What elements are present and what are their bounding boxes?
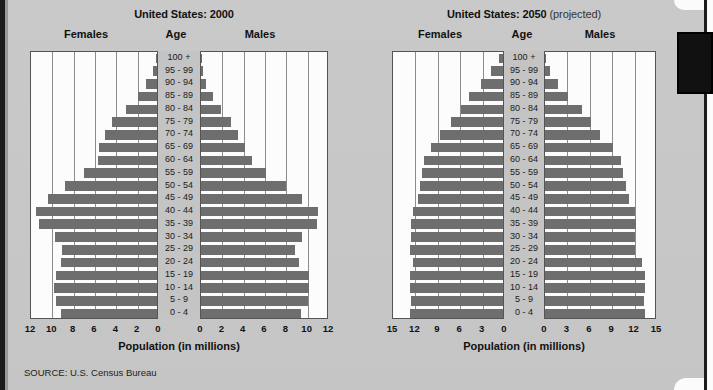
bar-males-50-54 [201,181,286,191]
bar-males-55-59 [545,168,623,178]
age-label: 90 - 94 [158,78,200,87]
females-plot [30,51,158,319]
bar-females-60-64 [424,156,503,166]
bar-males-85-89 [545,92,568,102]
column-headers: FemalesAgeMales [8,28,360,44]
bar-males-65-69 [545,143,613,153]
bar-row [393,167,503,180]
bar-row [545,90,655,103]
bar-row [201,52,327,65]
bar-row [201,294,327,307]
bar-females-70-74 [105,130,157,140]
x-tick-left: 12 [409,323,420,334]
bar-males-90-94 [545,79,558,89]
bar-males-75-79 [201,117,231,127]
age-label: 45 - 49 [158,193,200,202]
bar-row [545,294,655,307]
bar-females-90-94 [481,79,503,89]
bar-females-95-99 [491,66,503,76]
bar-males-80-84 [201,105,221,115]
bar-row [393,141,503,154]
x-tick-right: 6 [586,323,591,334]
x-tick-right: 4 [240,323,245,334]
bar-row [201,141,327,154]
bar-females-0-4 [410,309,503,319]
age-label: 80 - 84 [158,104,200,113]
age-label-column: 100 +95 - 9990 - 9485 - 8980 - 8475 - 79… [158,51,200,319]
x-tick-left: 2 [134,323,139,334]
age-label: 70 - 74 [158,129,200,138]
males-header: Males [585,28,616,40]
pyramid-panel-2000: United States: 2000FemalesAgeMales100 +9… [8,0,360,390]
bar-row [201,205,327,218]
bar-males-10-14 [201,283,309,293]
chart-title-main: United States: 2000 [134,8,234,20]
bar-row [393,78,503,91]
bar-row [201,307,327,319]
figure-root: United States: 2000FemalesAgeMales100 +9… [0,0,713,390]
bar-females-55-59 [422,168,503,178]
age-label: 85 - 89 [504,91,544,100]
bar-row [545,180,655,193]
bar-males-70-74 [201,130,238,140]
bar-row [31,116,157,129]
bar-males-0-4 [201,309,301,319]
bar-males-65-69 [201,143,245,153]
bar-row [31,103,157,116]
bar-females-80-84 [126,105,157,115]
age-label: 15 - 19 [504,270,544,279]
x-tick-right: 15 [651,323,662,334]
bar-females-50-54 [420,181,503,191]
bar-row [31,65,157,78]
bar-row [201,231,327,244]
bar-males-75-79 [545,117,591,127]
bar-row [201,154,327,167]
bar-row [545,269,655,282]
bar-row [201,243,327,256]
bar-row [393,65,503,78]
x-tick-right: 3 [564,323,569,334]
age-label: 0 - 4 [158,308,200,317]
bar-males-30-34 [545,232,635,242]
x-axis-ticks: 024681012024681012 [30,322,328,336]
bar-females-45-49 [418,194,503,204]
bar-males-5-9 [201,296,308,306]
age-label: 20 - 24 [158,257,200,266]
bar-row [201,103,327,116]
bar-males-0-4 [545,309,645,319]
pyramid-panel-2050: United States: 2050 (projected)FemalesAg… [374,0,674,390]
age-label: 25 - 29 [158,244,200,253]
bar-females-35-39 [411,219,503,229]
x-tick-left: 10 [46,323,57,334]
age-label: 70 - 74 [504,129,544,138]
bar-males-95-99 [545,66,550,76]
x-tick-right: 6 [261,323,266,334]
bar-females-75-79 [451,117,503,127]
age-label: 85 - 89 [158,91,200,100]
age-header: Age [166,28,187,40]
age-label: 95 - 99 [504,66,544,75]
bar-females-100+ [499,54,503,64]
age-label: 65 - 69 [158,142,200,151]
age-label: 35 - 39 [504,219,544,228]
x-axis-title: Population (in millions) [30,340,328,352]
bar-females-25-29 [410,245,503,255]
x-tick-left: 3 [479,323,484,334]
x-axis-title: Population (in millions) [392,340,656,352]
bar-males-15-19 [545,271,645,281]
bar-males-45-49 [201,194,302,204]
bar-row [31,205,157,218]
bar-males-25-29 [201,245,295,255]
bar-row [393,282,503,295]
bar-row [201,218,327,231]
age-label: 90 - 94 [504,78,544,87]
bar-row [31,294,157,307]
bar-row [31,256,157,269]
bar-row [201,256,327,269]
bar-row [545,243,655,256]
bar-females-50-54 [65,181,157,191]
bar-row [31,243,157,256]
x-tick-right: 0 [541,323,546,334]
bar-females-75-79 [112,117,157,127]
bar-row [201,129,327,142]
